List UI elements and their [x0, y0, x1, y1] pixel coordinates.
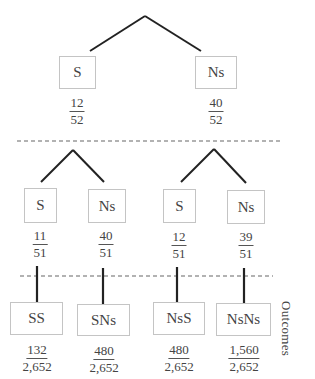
- node-l1-ns: Ns: [195, 56, 237, 89]
- node-l2-ns-ns: Ns: [227, 190, 265, 224]
- node-label: Ns: [208, 64, 225, 81]
- probability-l2-ns-s: 12 51: [172, 230, 187, 261]
- outcome-nsns: NsNs: [216, 303, 271, 336]
- branch-line: [214, 149, 246, 183]
- numerator: 132: [26, 343, 48, 359]
- denominator: 2,652: [22, 359, 51, 374]
- denominator: 52: [71, 112, 84, 127]
- numerator: 1,560: [228, 343, 259, 359]
- node-l2-s-s: S: [24, 188, 57, 223]
- outcomes-label: Outcomes: [278, 301, 294, 356]
- probability-l1-s: 12 52: [70, 96, 85, 127]
- numerator: 40: [99, 229, 114, 245]
- numerator: 480: [168, 343, 190, 359]
- numerator: 39: [239, 230, 254, 246]
- denominator: 2,652: [229, 359, 258, 374]
- denominator: 51: [173, 246, 186, 261]
- probability-ss: 132 2,652: [22, 343, 51, 374]
- outcome-label: SS: [28, 310, 45, 327]
- probability-l1-ns: 40 52: [209, 96, 224, 127]
- numerator: 480: [93, 344, 115, 360]
- node-l2-ns-s: S: [163, 189, 196, 223]
- node-l2-s-ns: Ns: [88, 189, 126, 223]
- denominator: 51: [100, 245, 113, 260]
- denominator: 52: [210, 112, 223, 127]
- denominator: 51: [34, 245, 47, 260]
- outcome-sns: SNs: [77, 304, 130, 336]
- outcome-label: SNs: [91, 312, 116, 329]
- denominator: 2,652: [89, 360, 118, 375]
- probability-nsns: 1,560 2,652: [228, 343, 259, 374]
- branch-line: [145, 16, 201, 51]
- branch-line: [90, 16, 145, 51]
- outcome-nss: NsS: [153, 302, 205, 335]
- node-label: Ns: [99, 198, 116, 215]
- numerator: 11: [33, 229, 48, 245]
- probability-sns: 480 2,652: [89, 344, 118, 375]
- probability-nss: 480 2,652: [164, 343, 193, 374]
- node-label: S: [36, 197, 44, 214]
- branch-line: [73, 150, 104, 182]
- denominator: 51: [240, 246, 253, 261]
- branch-line: [41, 150, 73, 182]
- outcome-label: NsS: [166, 310, 191, 327]
- numerator: 12: [70, 96, 85, 112]
- denominator: 2,652: [164, 359, 193, 374]
- node-label: S: [175, 198, 183, 215]
- node-label: Ns: [238, 199, 255, 216]
- outcome-label: NsNs: [227, 311, 260, 328]
- numerator: 40: [209, 96, 224, 112]
- numerator: 12: [172, 230, 187, 246]
- outcome-ss: SS: [10, 302, 63, 335]
- node-l1-s: S: [59, 56, 96, 89]
- probability-l2-s-s: 11 51: [33, 229, 48, 260]
- probability-l2-s-ns: 40 51: [99, 229, 114, 260]
- probability-l2-ns-ns: 39 51: [239, 230, 254, 261]
- branch-line: [181, 149, 214, 182]
- node-label: S: [73, 64, 81, 81]
